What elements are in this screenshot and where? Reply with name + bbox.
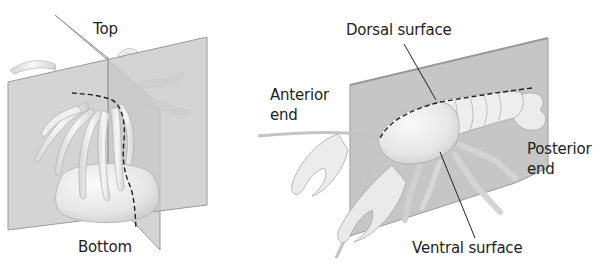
label-anterior-end-line2: end: [270, 106, 298, 125]
crayfish-illustration: [258, 38, 548, 258]
label-posterior-end-line2: end: [527, 160, 555, 179]
sea-anemone-illustration: [8, 15, 207, 250]
label-anterior-end-line1: Anterior: [270, 86, 329, 105]
body-symmetry-diagram: [0, 0, 607, 271]
tentacle-back-left: [10, 61, 56, 74]
label-ventral-surface: Ventral surface: [412, 239, 522, 258]
label-top: Top: [93, 20, 118, 39]
left-claw: [292, 134, 348, 196]
label-bottom: Bottom: [78, 238, 132, 257]
label-posterior-end-line1: Posterior: [527, 140, 592, 159]
label-dorsal-surface: Dorsal surface: [346, 21, 451, 40]
